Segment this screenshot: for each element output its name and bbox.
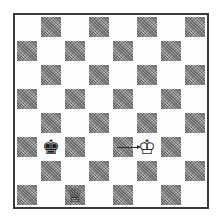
square-b8[interactable] — [39, 15, 63, 39]
square-h4[interactable] — [183, 111, 207, 135]
square-h6[interactable] — [183, 63, 207, 87]
square-a4[interactable] — [15, 111, 39, 135]
square-f6[interactable] — [135, 63, 159, 87]
square-a8[interactable] — [15, 15, 39, 39]
square-a1[interactable] — [15, 183, 39, 207]
square-e6[interactable] — [111, 63, 135, 87]
square-e4[interactable] — [111, 111, 135, 135]
square-a6[interactable] — [15, 63, 39, 87]
square-g4[interactable] — [159, 111, 183, 135]
square-c7[interactable] — [63, 39, 87, 63]
square-f8[interactable] — [135, 15, 159, 39]
square-c1[interactable]: ♕ — [63, 183, 87, 207]
square-g8[interactable] — [159, 15, 183, 39]
square-f7[interactable] — [135, 39, 159, 63]
square-d1[interactable] — [87, 183, 111, 207]
white-queen-glyph: ♕ — [66, 183, 84, 207]
square-a5[interactable] — [15, 87, 39, 111]
square-a7[interactable] — [15, 39, 39, 63]
square-g1[interactable] — [159, 183, 183, 207]
square-c4[interactable] — [63, 111, 87, 135]
square-h8[interactable] — [183, 15, 207, 39]
square-g5[interactable] — [159, 87, 183, 111]
square-h5[interactable] — [183, 87, 207, 111]
square-e2[interactable] — [111, 159, 135, 183]
white-queen-icon[interactable]: ♕ — [63, 183, 87, 207]
square-b4[interactable] — [39, 111, 63, 135]
square-e7[interactable] — [111, 39, 135, 63]
square-c2[interactable] — [63, 159, 87, 183]
square-g6[interactable] — [159, 63, 183, 87]
square-f4[interactable] — [135, 111, 159, 135]
square-h3[interactable] — [183, 135, 207, 159]
black-king-glyph: ♚ — [42, 135, 60, 159]
square-c5[interactable] — [63, 87, 87, 111]
square-a2[interactable] — [15, 159, 39, 183]
square-b6[interactable] — [39, 63, 63, 87]
square-c6[interactable] — [63, 63, 87, 87]
square-g2[interactable] — [159, 159, 183, 183]
square-b3[interactable]: ♚ — [39, 135, 63, 159]
square-b1[interactable] — [39, 183, 63, 207]
square-b5[interactable] — [39, 87, 63, 111]
square-d2[interactable] — [87, 159, 111, 183]
black-king-icon[interactable]: ♚ — [39, 135, 63, 159]
square-d3[interactable] — [87, 135, 111, 159]
square-f1[interactable] — [135, 183, 159, 207]
move-arrow-icon — [117, 147, 138, 148]
board-grid: ♚♔♕ — [15, 15, 207, 207]
square-e1[interactable] — [111, 183, 135, 207]
square-f2[interactable] — [135, 159, 159, 183]
square-d8[interactable] — [87, 15, 111, 39]
square-e5[interactable] — [111, 87, 135, 111]
square-h7[interactable] — [183, 39, 207, 63]
square-g3[interactable] — [159, 135, 183, 159]
square-d5[interactable] — [87, 87, 111, 111]
square-c3[interactable] — [63, 135, 87, 159]
square-a3[interactable] — [15, 135, 39, 159]
square-e8[interactable] — [111, 15, 135, 39]
square-h1[interactable] — [183, 183, 207, 207]
square-d6[interactable] — [87, 63, 111, 87]
chess-board: ♚♔♕ — [13, 13, 209, 209]
square-h2[interactable] — [183, 159, 207, 183]
square-d4[interactable] — [87, 111, 111, 135]
square-b2[interactable] — [39, 159, 63, 183]
square-d7[interactable] — [87, 39, 111, 63]
square-b7[interactable] — [39, 39, 63, 63]
square-g7[interactable] — [159, 39, 183, 63]
square-f5[interactable] — [135, 87, 159, 111]
square-c8[interactable] — [63, 15, 87, 39]
